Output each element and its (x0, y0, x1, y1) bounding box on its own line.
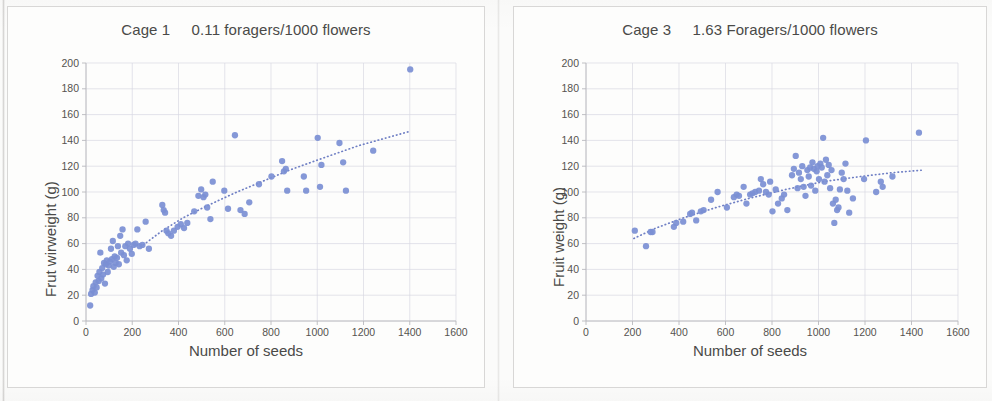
data-point (283, 166, 289, 172)
data-point (207, 216, 213, 222)
data-point (284, 188, 290, 194)
chart-panel-cage-3: Cage 3 1.63 Foragers/1000 flowers 020406… (513, 6, 987, 388)
data-point (221, 188, 227, 194)
data-point (714, 189, 720, 195)
x-tick-label: 1600 (444, 326, 468, 338)
data-point (632, 228, 638, 234)
data-point (819, 164, 825, 170)
data-point (793, 153, 799, 159)
data-point (134, 226, 140, 232)
x-tick-label: 400 (170, 326, 188, 338)
data-point (117, 233, 123, 239)
x-axis-tick-labels: 02004006008001000120014001600 (83, 321, 468, 338)
data-point (116, 261, 122, 267)
data-point (317, 184, 323, 190)
data-point (827, 185, 833, 191)
x-tick-label: 1400 (900, 326, 924, 338)
data-point (789, 172, 795, 178)
data-point (880, 184, 886, 190)
data-point (279, 158, 285, 164)
data-point (775, 200, 781, 206)
data-point (812, 188, 818, 194)
data-point (794, 185, 800, 191)
scatter-plot-cage-3: 0204060801001201401601802000200400600800… (514, 7, 988, 389)
y-tick-label: 180 (561, 82, 579, 94)
data-point (839, 170, 845, 176)
data-point (649, 229, 655, 235)
data-point (824, 172, 830, 178)
data-point (800, 184, 806, 190)
data-point (816, 176, 822, 182)
y-tick-label: 0 (73, 315, 79, 327)
data-point (700, 207, 706, 213)
data-points (87, 66, 413, 308)
data-point (799, 163, 805, 169)
data-point (861, 176, 867, 182)
data-point (708, 197, 714, 203)
y-tick-label: 40 (67, 263, 79, 275)
data-point (110, 238, 116, 244)
data-point (781, 191, 787, 197)
data-point (844, 188, 850, 194)
y-tick-label: 200 (61, 57, 79, 69)
data-point (828, 167, 834, 173)
y-tick-label: 180 (61, 82, 79, 94)
data-point (773, 186, 779, 192)
x-tick-label: 1400 (398, 326, 422, 338)
data-point (129, 251, 135, 257)
data-point (743, 200, 749, 206)
data-point (202, 191, 208, 197)
y-tick-label: 120 (61, 160, 79, 172)
x-axis-title-cage-3: Number of seeds (514, 342, 986, 359)
data-point (809, 159, 815, 165)
data-points (632, 130, 922, 250)
y-tick-label: 200 (561, 57, 579, 69)
data-point (724, 204, 730, 210)
data-point (784, 207, 790, 213)
data-point (760, 181, 766, 187)
y-axis-tick-labels: 020406080100120140160180200 (61, 57, 86, 327)
data-point (693, 217, 699, 223)
data-point (850, 195, 856, 201)
data-point (889, 173, 895, 179)
data-point (643, 243, 649, 249)
y-axis-title-cage-1: Frut wirweight (g) (42, 181, 59, 297)
data-point (767, 179, 773, 185)
data-point (769, 208, 775, 214)
data-point (680, 219, 686, 225)
data-point (318, 162, 324, 168)
y-tick-label: 80 (567, 211, 579, 223)
y-tick-label: 140 (561, 134, 579, 146)
data-point (246, 199, 252, 205)
data-point (162, 209, 168, 215)
x-tick-label: 600 (216, 326, 234, 338)
x-axis-title-cage-1: Number of seeds (8, 342, 484, 359)
data-point (806, 173, 812, 179)
data-point (115, 243, 121, 249)
data-point (256, 181, 262, 187)
data-point (407, 66, 413, 72)
data-point (315, 135, 321, 141)
data-point (831, 220, 837, 226)
y-tick-label: 0 (573, 315, 579, 327)
scatter-plot-cage-1: 0204060801001201401601802000200400600800… (8, 7, 486, 389)
y-tick-label: 160 (561, 108, 579, 120)
data-point (736, 193, 742, 199)
data-point (204, 204, 210, 210)
y-tick-label: 80 (67, 211, 79, 223)
x-tick-label: 200 (123, 326, 141, 338)
y-tick-label: 120 (561, 160, 579, 172)
data-point (198, 186, 204, 192)
data-point (241, 211, 247, 217)
data-point (119, 226, 125, 232)
x-tick-label: 0 (583, 326, 589, 338)
x-tick-label: 600 (717, 326, 735, 338)
data-point (87, 302, 93, 308)
data-point (124, 257, 130, 263)
y-tick-label: 40 (567, 263, 579, 275)
data-point (102, 280, 108, 286)
data-point (301, 173, 307, 179)
data-point (798, 176, 804, 182)
data-point (93, 284, 99, 290)
y-tick-label: 140 (61, 134, 79, 146)
